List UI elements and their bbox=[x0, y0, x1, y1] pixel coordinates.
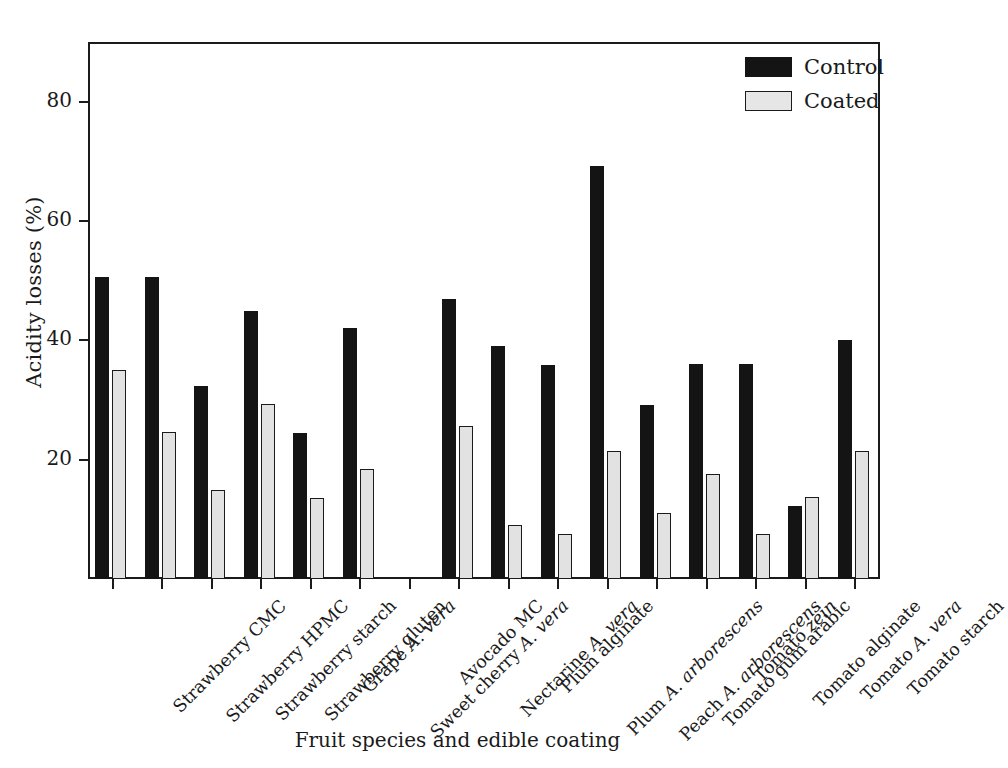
bar-control-4 bbox=[293, 433, 307, 579]
bar-control-0 bbox=[95, 277, 109, 579]
x-tick-mark-1 bbox=[161, 579, 163, 589]
y-tick-label: 60 bbox=[47, 207, 72, 231]
x-tick-mark-14 bbox=[805, 579, 807, 589]
bar-coated-15 bbox=[855, 451, 869, 579]
x-tick-mark-10 bbox=[607, 579, 609, 589]
bars-layer bbox=[88, 42, 880, 579]
x-axis-label-0: Strawberry CMC bbox=[170, 597, 289, 716]
x-tick-mark-9 bbox=[557, 579, 559, 589]
bar-control-9 bbox=[541, 365, 555, 579]
y-tick-mark bbox=[79, 220, 88, 222]
bar-control-10 bbox=[590, 166, 604, 579]
x-axis-title: Fruit species and edible coating bbox=[0, 728, 915, 752]
bar-control-3 bbox=[244, 311, 258, 580]
bar-control-1 bbox=[145, 277, 159, 579]
legend-item-control: Control bbox=[745, 50, 873, 84]
x-axis-label-8: Plum alginate bbox=[558, 597, 657, 696]
x-tick-mark-13 bbox=[755, 579, 757, 589]
y-axis-title: Acidity losses (%) bbox=[22, 22, 46, 562]
bar-control-13 bbox=[739, 364, 753, 579]
x-tick-mark-6 bbox=[409, 579, 411, 589]
legend-swatch-coated bbox=[745, 91, 792, 111]
x-tick-mark-7 bbox=[458, 579, 460, 589]
x-tick-mark-12 bbox=[706, 579, 708, 589]
y-tick-label: 20 bbox=[47, 446, 72, 470]
x-tick-mark-5 bbox=[359, 579, 361, 589]
y-tick-label: 40 bbox=[47, 326, 72, 350]
legend-swatch-control bbox=[745, 57, 792, 77]
bar-coated-12 bbox=[706, 474, 720, 579]
x-tick-mark-11 bbox=[656, 579, 658, 589]
bar-coated-2 bbox=[211, 490, 225, 580]
x-tick-mark-4 bbox=[310, 579, 312, 589]
legend-item-coated: Coated bbox=[745, 84, 873, 118]
bar-coated-14 bbox=[805, 497, 819, 579]
bar-coated-5 bbox=[360, 469, 374, 579]
x-tick-mark-15 bbox=[854, 579, 856, 589]
bar-control-14 bbox=[788, 506, 802, 579]
bar-control-15 bbox=[838, 340, 852, 579]
bar-coated-4 bbox=[310, 498, 324, 579]
bar-coated-8 bbox=[508, 525, 522, 579]
x-tick-mark-8 bbox=[508, 579, 510, 589]
bar-coated-11 bbox=[657, 513, 671, 579]
bar-control-11 bbox=[640, 405, 654, 579]
x-tick-mark-2 bbox=[211, 579, 213, 589]
bar-control-12 bbox=[689, 364, 703, 579]
y-tick-mark bbox=[79, 101, 88, 103]
bar-coated-1 bbox=[162, 432, 176, 579]
y-tick-mark bbox=[79, 459, 88, 461]
x-tick-mark-0 bbox=[112, 579, 114, 589]
bar-control-8 bbox=[491, 346, 505, 579]
bar-control-7 bbox=[442, 299, 456, 579]
bar-coated-9 bbox=[558, 534, 572, 579]
bar-coated-3 bbox=[261, 404, 275, 579]
y-tick-label: 80 bbox=[47, 88, 72, 112]
bar-coated-0 bbox=[112, 370, 126, 579]
bar-control-2 bbox=[194, 386, 208, 579]
bar-coated-7 bbox=[459, 426, 473, 579]
bar-coated-10 bbox=[607, 451, 621, 579]
bar-control-5 bbox=[343, 328, 357, 579]
bar-coated-13 bbox=[756, 534, 770, 579]
legend-label: Control bbox=[804, 55, 884, 79]
y-tick-mark bbox=[79, 339, 88, 341]
x-tick-mark-3 bbox=[260, 579, 262, 589]
chart-legend: ControlCoated bbox=[745, 50, 873, 118]
legend-label: Coated bbox=[804, 89, 880, 113]
